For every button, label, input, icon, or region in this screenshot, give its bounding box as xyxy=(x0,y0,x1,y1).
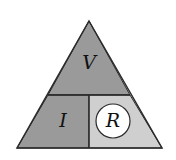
label-i: I xyxy=(58,109,67,131)
current-section xyxy=(17,95,89,148)
ohms-law-triangle: V I R xyxy=(0,0,176,160)
label-r: R xyxy=(105,109,120,131)
label-v: V xyxy=(82,51,98,73)
